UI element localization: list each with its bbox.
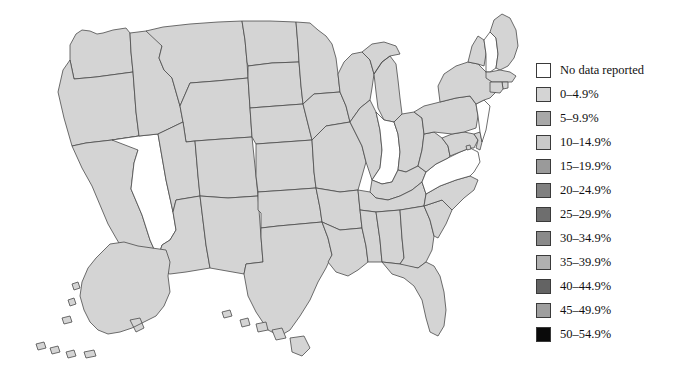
legend-label-45-49: 45–49.9% [560, 304, 611, 317]
legend-item-20-24[interactable]: 20–24.9% [536, 178, 674, 202]
state-ND[interactable] [242, 21, 299, 66]
legend-label-25-29: 25–29.9% [560, 208, 611, 221]
legend-item-40-44[interactable]: 40–44.9% [536, 274, 674, 298]
legend-item-50-54[interactable]: 50–54.9% [536, 322, 674, 346]
legend-swatch-15-19 [536, 159, 551, 174]
legend-item-15-19[interactable]: 15–19.9% [536, 154, 674, 178]
state-PA[interactable] [414, 96, 478, 134]
legend-label-20-24: 20–24.9% [560, 184, 611, 197]
state-CO[interactable] [195, 137, 258, 198]
legend-label-40-44: 40–44.9% [560, 280, 611, 293]
legend-swatch-45-49 [536, 303, 551, 318]
legend-swatch-25-29 [536, 207, 551, 222]
legend-item-25-29[interactable]: 25–29.9% [536, 202, 674, 226]
state-NE[interactable] [250, 104, 312, 144]
state-WA[interactable] [70, 28, 133, 79]
states-group [36, 14, 518, 358]
state-NM[interactable] [200, 196, 263, 274]
legend-label-35-39: 35–39.9% [560, 256, 611, 269]
legend-swatch-0-4 [536, 87, 551, 102]
legend-item-10-14[interactable]: 10–14.9% [536, 130, 674, 154]
us-map-svg [0, 0, 530, 380]
legend-swatch-20-24 [536, 183, 551, 198]
state-OK[interactable] [258, 188, 322, 228]
legend-swatch-10-14 [536, 135, 551, 150]
state-WY[interactable] [180, 78, 252, 142]
state-CT[interactable] [490, 82, 503, 93]
legend-item-no-data[interactable]: No data reported [536, 58, 674, 82]
legend-label-0-4: 0–4.9% [560, 88, 599, 101]
legend-label-5-9: 5–9.9% [560, 112, 599, 125]
legend-item-45-49[interactable]: 45–49.9% [536, 298, 674, 322]
state-MA[interactable] [486, 70, 516, 82]
legend-swatch-30-34 [536, 231, 551, 246]
state-KS[interactable] [256, 140, 316, 192]
legend-item-35-39[interactable]: 35–39.9% [536, 250, 674, 274]
state-SD[interactable] [248, 62, 303, 108]
state-DC[interactable] [466, 145, 471, 150]
legend-swatch-35-39 [536, 255, 551, 270]
map-panel [0, 0, 530, 380]
choropleth-figure: No data reported 0–4.9% 5–9.9% 10–14.9% … [0, 0, 674, 380]
legend-swatch-5-9 [536, 111, 551, 126]
legend-item-5-9[interactable]: 5–9.9% [536, 106, 674, 130]
legend-item-0-4[interactable]: 0–4.9% [536, 82, 674, 106]
legend-label-15-19: 15–19.9% [560, 160, 611, 173]
legend-swatch-50-54 [536, 327, 551, 342]
map-legend: No data reported 0–4.9% 5–9.9% 10–14.9% … [536, 58, 674, 346]
legend-swatch-40-44 [536, 279, 551, 294]
legend-label-no-data: No data reported [560, 64, 644, 77]
state-FL[interactable] [382, 262, 446, 336]
state-AK[interactable] [36, 242, 170, 358]
state-VT[interactable] [468, 36, 486, 66]
legend-label-50-54: 50–54.9% [560, 328, 611, 341]
legend-label-30-34: 30–34.9% [560, 232, 611, 245]
legend-swatch-no-data [536, 63, 551, 78]
legend-label-10-14: 10–14.9% [560, 136, 611, 149]
legend-item-30-34[interactable]: 30–34.9% [536, 226, 674, 250]
state-MN[interactable] [296, 22, 340, 104]
